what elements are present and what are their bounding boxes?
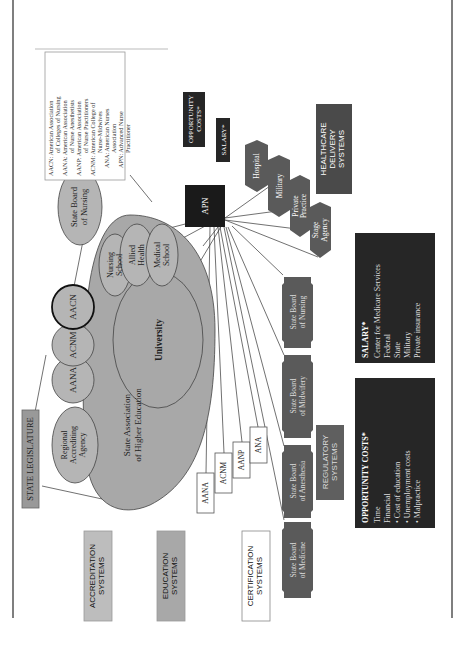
hds-label-3: SYSTEMS [337,130,346,168]
military-label: Military [275,173,284,198]
salary-item: State [393,342,402,358]
certification-label-2: SYSTEMS [255,557,264,595]
aacn-label: AACN [68,294,78,320]
cert-aanp-label: AANP [237,450,246,470]
regional-accrediting-label-1: Regional [60,430,69,460]
allied-health-label-2: Health [137,244,146,265]
state-assoc-label-1: State Association [122,393,132,456]
legend-aana-2: of Nurse Anesthetists [68,99,75,153]
legend-aanp-2: of Nurse Practitioners [82,98,89,153]
private-practice-label-2: Practice [299,193,308,218]
stage-agency-label-1: Stage [311,221,320,238]
salary-item: Federal [383,333,392,358]
opp-small-label-1: OPPORTUNITY [187,95,195,143]
legend-ana-1: ANA: American Nurses [103,108,110,168]
university-label: University [154,319,164,361]
accreditation-label-1: ACCREDITATION [88,544,97,608]
opportunity-box-title: OPPORTUNITY COSTS* [361,432,370,523]
medical-school-label-2: School [162,243,171,266]
legend-aana-1: AANA: American Association [61,100,68,176]
opp-small-label-2: COSTS* [195,106,203,132]
apn-label: APN [200,197,210,214]
education-label-2: SYSTEMS [170,557,179,595]
opportunity-item: Financial [383,492,392,523]
apn-systems-diagram: STATE LEGISLATURE Regional Accrediting A… [0,0,458,652]
salary-box-title: SALARY* [361,321,370,358]
allied-health-label-1: Allied [128,245,137,265]
salary-item: Center for Medicare Services [373,264,382,358]
sbm-label-1: State Board [289,542,298,577]
cert-aana-label: AANA [201,482,210,504]
salary-item: Military [403,332,412,358]
certification-label-1: CERTIFICATION [246,545,255,606]
regional-accrediting-label-3: Agency [78,433,87,458]
legend-aanp-1: AANP: American Association [75,101,82,176]
legend-ana-2: Association [110,124,117,153]
stage-agency-label-2: Agency [320,218,329,242]
education-label-1: EDUCATION [161,553,170,600]
opportunity-item: • Cost of education [393,462,402,523]
legend-acnm-1: ACNM: American College of [89,102,96,176]
sbn-reg-label-2: of Nursing [298,296,307,329]
acnm-label: ACNM [68,331,78,358]
opportunity-item: • Unemployment costs [403,450,412,523]
legend-aacn-2: of Colleges of Nursing [54,96,61,153]
legend-aacn-1: AACN: American Association [47,101,54,176]
salary-small-label: SALARY* [220,124,228,156]
accreditation-label-2: SYSTEMS [97,557,106,595]
regulatory-label-2: SYSTEMS [330,443,339,481]
state-legislature-label: STATE LEGISLATURE [25,417,35,501]
nursing-school-label-2: School [115,253,124,276]
hospital-label: Hospital [252,153,261,178]
aana-label: AANA [68,367,78,393]
sbmw-label-1: State Board [289,378,298,413]
cert-ana-label: ANA [254,436,263,453]
hds-label-1: HEALTHCARE [319,122,328,175]
sban-label-1: State Board [289,463,298,498]
hds-label-2: DELIVERY [328,129,337,169]
legend-apn-1: APN: Advanced Nurse [117,111,124,168]
sbn-top-label-2: of Nursing [79,188,89,225]
salary-item: Private insurance [413,302,422,358]
legend-acnm-2: Nurse-Midwives [96,111,103,153]
regional-accrediting-label-2: Accrediting [69,426,78,464]
medical-school-label-1: Medical [153,241,162,268]
sbm-label-2: of Medicine [298,541,307,578]
sbn-top-label-1: State Board [69,186,79,227]
sban-label-2: of Anesthesia [298,460,307,501]
cert-acnm-label: ACNM [219,461,228,484]
state-assoc-label-2: of Higher Education [133,388,143,462]
opportunity-item: • Malpractice [413,480,422,523]
sbmw-label-2: of Midwifery [298,376,307,416]
opportunity-item: Time [373,506,382,523]
nursing-school-label-1: Nursing [106,252,115,278]
regulatory-label-1: REGULATORY [321,434,330,489]
sbn-reg-label-1: State Board [289,294,298,329]
legend-apn-2: Practitioner [124,124,131,153]
